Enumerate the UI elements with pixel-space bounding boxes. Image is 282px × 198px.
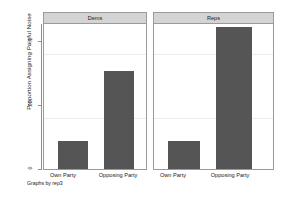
panel-reps: Reps	[153, 12, 274, 170]
chart-caption: Graphs by rep3	[27, 180, 63, 186]
panel-header-reps: Reps	[154, 13, 273, 24]
x-tick-label-reps-opposing: Opposing Party	[195, 172, 265, 178]
y-tick-label-bottom: 0	[27, 160, 33, 176]
x-tick-label-dems-opposing: Opposing Party	[83, 172, 153, 178]
x-tick-label-reps-own: Own Party	[148, 172, 198, 178]
x-tick-label-dems-own: Own Party	[38, 172, 88, 178]
gridline-0.1	[154, 54, 273, 55]
bar-reps-opposing-party[interactable]	[216, 27, 252, 169]
y-tick-label-mid: .05	[27, 96, 33, 112]
gridline-0.1	[44, 54, 146, 55]
y-axis-line	[41, 24, 42, 170]
gridline-0.05	[154, 118, 273, 119]
bar-reps-own-party[interactable]	[168, 141, 200, 169]
bar-dems-own-party[interactable]	[58, 141, 88, 169]
plot-area-reps	[154, 24, 273, 169]
plot-area-dems	[44, 24, 146, 169]
bar-dems-opposing-party[interactable]	[104, 71, 134, 169]
panel-dems: Dems	[43, 12, 147, 170]
chart-figure: Proportion Assigning Painful Noise .1 .0…	[0, 0, 282, 198]
panel-header-dems: Dems	[44, 13, 146, 24]
y-tick-label-top: .1	[27, 32, 33, 48]
